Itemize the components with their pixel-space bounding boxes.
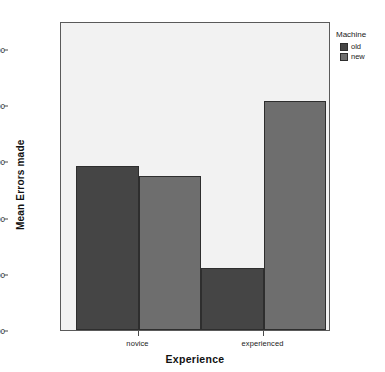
plot-area — [60, 22, 330, 331]
bar-novice-old — [76, 166, 139, 330]
x-tick-mark — [138, 331, 139, 336]
bar-novice-new — [139, 176, 202, 331]
legend-label: new — [351, 52, 365, 61]
bar-experienced-new — [264, 101, 327, 330]
y-axis: 0.002.004.006.008.0010.00 — [0, 0, 60, 372]
y-tick-mark — [4, 50, 8, 51]
legend-label: old — [351, 42, 361, 51]
x-axis-title: Experience — [60, 353, 330, 365]
legend-item-new: new — [340, 52, 384, 61]
bar-experienced-old — [201, 268, 264, 330]
x-tick-label-novice: novice — [126, 339, 148, 348]
legend-swatch-icon — [340, 43, 348, 51]
legend-item-old: old — [340, 42, 384, 51]
y-axis-title: Mean Errors made — [12, 130, 28, 240]
x-tick-label-experienced: experienced — [242, 339, 284, 348]
x-tick-mark — [263, 331, 264, 336]
y-tick-mark — [4, 331, 8, 332]
y-tick-mark — [4, 274, 8, 275]
bars-container — [61, 23, 329, 330]
legend: Machine oldnew — [336, 30, 384, 61]
y-tick-mark — [4, 106, 8, 107]
legend-items: oldnew — [336, 42, 384, 61]
legend-title: Machine — [336, 30, 384, 39]
y-tick-mark — [4, 218, 8, 219]
y-tick-mark — [4, 162, 8, 163]
legend-swatch-icon — [340, 53, 348, 61]
bar-chart: 0.002.004.006.008.0010.00 Mean Errors ma… — [0, 0, 385, 372]
